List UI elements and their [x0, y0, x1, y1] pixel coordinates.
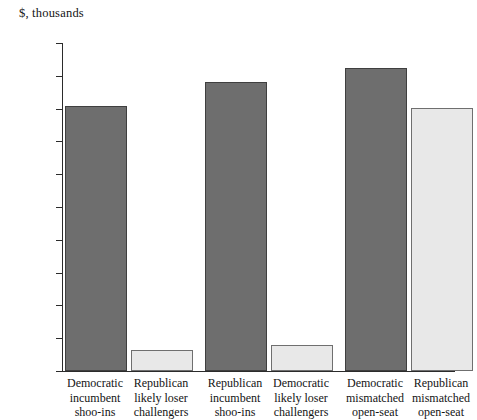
- y-tick-600: [56, 174, 63, 175]
- y-tick-1000: [56, 43, 63, 44]
- x-axis-baseline: [62, 371, 455, 372]
- y-tick-800: [56, 109, 63, 110]
- x-label-5: Republicanmismatchedopen-seat: [396, 376, 477, 420]
- y-tick-900: [56, 76, 63, 77]
- y-tick-0: [56, 371, 63, 372]
- y-tick-100: [56, 338, 63, 339]
- y-tick-500: [56, 207, 63, 208]
- y-axis-unit-title: $, thousands: [19, 6, 84, 21]
- bar-republican-likely-loser-challengers[interactable]: [131, 350, 193, 371]
- y-tick-200: [56, 305, 63, 306]
- y-tick-400: [56, 240, 63, 241]
- plot-area: [63, 43, 455, 371]
- bar-republican-mismatched-open-seat[interactable]: [411, 108, 473, 371]
- bar-democratic-mismatched-open-seat[interactable]: [345, 68, 407, 371]
- bar-democratic-incumbent-shoo-ins[interactable]: [65, 106, 127, 371]
- y-tick-700: [56, 141, 63, 142]
- bar-republican-incumbent-shoo-ins[interactable]: [205, 82, 267, 371]
- y-tick-300: [56, 273, 63, 274]
- bar-democratic-likely-loser-challengers[interactable]: [271, 345, 333, 371]
